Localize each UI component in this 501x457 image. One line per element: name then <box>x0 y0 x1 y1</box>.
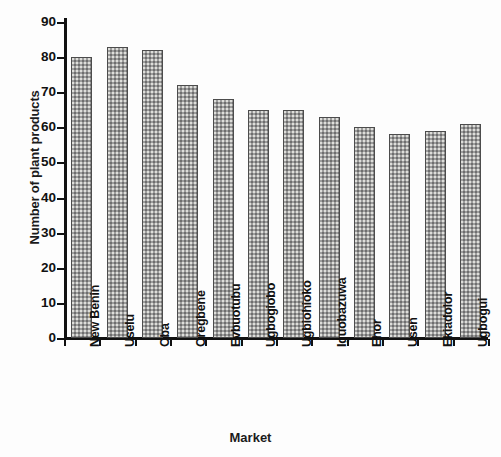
x-axis-tick-label: Ehor <box>370 257 384 347</box>
y-axis-tick-mark <box>57 268 64 270</box>
x-axis-tick-mark <box>382 339 384 346</box>
y-axis-tick-label: 80 <box>26 50 56 64</box>
x-axis-tick-label: Oba <box>158 257 172 347</box>
x-axis-tick-mark <box>311 339 313 346</box>
y-axis-tick-label: 40 <box>26 191 56 205</box>
y-axis-tick-mark <box>57 92 64 94</box>
x-axis-tick-label: Ugbogui <box>476 257 490 347</box>
x-axis-tick-mark <box>488 339 490 346</box>
x-axis-tick-mark <box>453 339 455 346</box>
x-axis-tick-mark <box>64 339 66 346</box>
x-axis-tick-label: Ugbogiobo <box>264 257 278 347</box>
x-axis-tick-mark <box>170 339 172 346</box>
y-axis-tick-mark <box>57 303 64 305</box>
y-axis-tick-label: 60 <box>26 120 56 134</box>
bar-chart: Number of plant products 010203040506070… <box>0 0 501 457</box>
x-axis-tick-label: Evbuotubu <box>229 257 243 347</box>
x-axis-tick-mark <box>135 339 137 346</box>
y-axis-tick-label: 70 <box>26 85 56 99</box>
y-axis-tick-label: 10 <box>26 296 56 310</box>
x-axis-tick-mark <box>241 339 243 346</box>
x-axis-tick-label: Iguobazuwa <box>335 257 349 347</box>
x-axis-tick-label: Oregbene <box>194 257 208 347</box>
y-axis-tick-label: 50 <box>26 155 56 169</box>
y-axis-tick-label: 20 <box>26 261 56 275</box>
x-axis-tick-mark <box>205 339 207 346</box>
x-axis-tick-mark <box>276 339 278 346</box>
x-axis-tick-label: Uselu <box>123 257 137 347</box>
y-axis-tick-mark <box>57 162 64 164</box>
y-axis-tick-label: 90 <box>26 15 56 29</box>
x-axis-title: Market <box>0 430 501 445</box>
x-axis-tick-mark <box>99 339 101 346</box>
y-axis-tick-mark <box>57 127 64 129</box>
y-axis-tick-label: 30 <box>26 226 56 240</box>
x-axis-tick-label: Ugbiohioko <box>300 257 314 347</box>
y-axis-tick-mark <box>57 198 64 200</box>
y-axis-tick-labels: 0102030405060708090 <box>26 0 56 457</box>
x-axis-tick-label: Usen <box>406 257 420 347</box>
x-axis-tick-label: New Benin <box>88 257 102 347</box>
y-axis-tick-mark <box>57 233 64 235</box>
y-axis-tick-mark <box>57 57 64 59</box>
y-axis-tick-mark <box>57 338 64 340</box>
x-axis-tick-mark <box>347 339 349 346</box>
y-axis-tick-mark <box>57 22 64 24</box>
x-axis-tick-label: Ekiadolor <box>441 257 455 347</box>
x-axis-tick-mark <box>417 339 419 346</box>
y-axis-tick-label: 0 <box>26 331 56 345</box>
